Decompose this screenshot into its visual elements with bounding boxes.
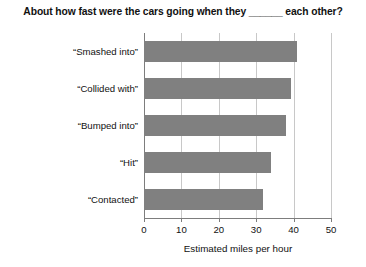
bar-row — [144, 115, 286, 136]
x-tick-label-40: 40 — [280, 224, 308, 235]
bar — [144, 41, 297, 62]
x-tick-40 — [294, 218, 295, 222]
bar — [144, 189, 263, 210]
x-tick-label-20: 20 — [205, 224, 233, 235]
category-label: “Contacted” — [0, 194, 138, 205]
x-tick-label-30: 30 — [242, 224, 270, 235]
x-axis-title: Estimated miles per hour — [144, 243, 332, 254]
bar-row — [144, 189, 263, 210]
x-tick-10 — [181, 218, 182, 222]
x-tick-label-10: 10 — [167, 224, 195, 235]
category-label: “Hit” — [0, 157, 138, 168]
bar-row — [144, 152, 271, 173]
category-label: “Smashed into” — [0, 46, 138, 57]
gridline-50 — [331, 33, 332, 218]
bar — [144, 115, 286, 136]
bar-row — [144, 78, 291, 99]
x-tick-label-0: 0 — [130, 224, 158, 235]
bar — [144, 152, 271, 173]
x-tick-20 — [219, 218, 220, 222]
category-label: “Collided with” — [0, 83, 138, 94]
bar — [144, 78, 291, 99]
bar-row — [144, 41, 297, 62]
x-axis-line — [144, 218, 332, 219]
x-tick-0 — [144, 218, 145, 222]
x-tick-50 — [331, 218, 332, 222]
chart-title: About how fast were the cars going when … — [0, 6, 366, 17]
x-tick-label-50: 50 — [317, 224, 345, 235]
category-label: “Bumped into” — [0, 120, 138, 131]
bar-chart-figure: About how fast were the cars going when … — [0, 0, 366, 267]
category-axis-labels: “Smashed into”“Collided with”“Bumped int… — [0, 33, 138, 218]
x-tick-30 — [256, 218, 257, 222]
